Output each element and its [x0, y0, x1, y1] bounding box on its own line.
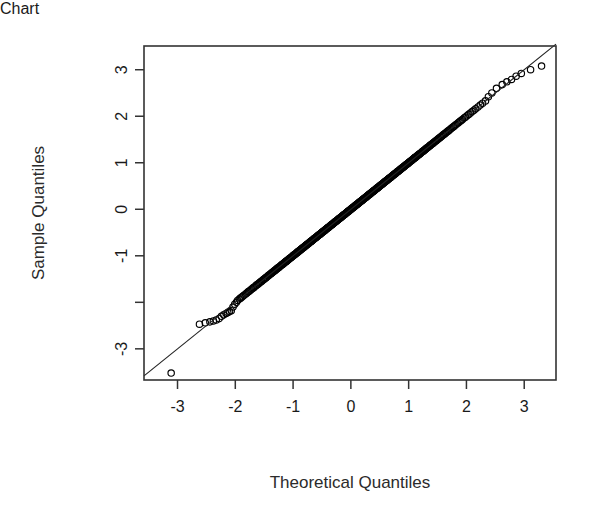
- y-tick-label: 1: [114, 158, 131, 167]
- y-axis-title: Sample Quantiles: [29, 146, 48, 280]
- qq-reference-line: [144, 44, 556, 376]
- y-axis-ticks: [135, 70, 144, 349]
- y-tick-label: 2: [114, 112, 131, 121]
- data-point: [538, 63, 544, 69]
- data-point: [168, 370, 174, 376]
- y-tick-label: -3: [114, 342, 131, 356]
- chart-title: [0, 0, 590, 5]
- y-tick-label: 0: [114, 205, 131, 214]
- data-points-layer: [168, 63, 545, 376]
- x-tick-label: -1: [286, 398, 300, 415]
- x-tick-label: 3: [520, 398, 529, 415]
- x-tick-label: 1: [404, 398, 413, 415]
- qq-plot-figure: -3-2-10123 -3-10123 Theoretical Quantile…: [0, 0, 590, 525]
- data-point: [527, 67, 533, 73]
- x-tick-label: -2: [228, 398, 242, 415]
- y-tick-label: -1: [114, 249, 131, 263]
- y-axis-tick-labels: -3-10123: [114, 65, 131, 356]
- x-tick-label: 2: [462, 398, 471, 415]
- x-tick-label: 0: [346, 398, 355, 415]
- x-tick-label: -3: [170, 398, 184, 415]
- x-axis-tick-labels: -3-2-10123: [170, 398, 528, 415]
- x-axis-ticks: [178, 380, 525, 389]
- qq-plot-canvas: -3-2-10123 -3-10123 Theoretical Quantile…: [0, 0, 590, 525]
- y-tick-label: 3: [114, 65, 131, 74]
- x-axis-title: Theoretical Quantiles: [270, 473, 431, 492]
